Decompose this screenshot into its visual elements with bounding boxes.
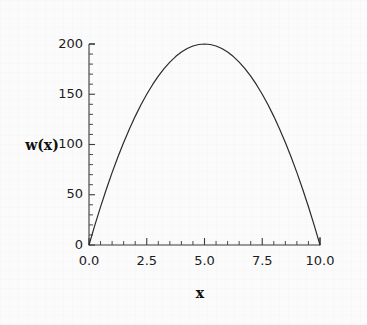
x-tick-label: 2.5 xyxy=(136,253,157,268)
axes-group xyxy=(89,44,320,245)
ticks-group xyxy=(89,44,320,245)
x-tick-label: 0.0 xyxy=(79,253,100,268)
y-axis-title: w(x) xyxy=(24,137,59,153)
plot-canvas: 0501001502000.02.55.07.510.0 w(x) x xyxy=(0,0,367,325)
chart-figure: 0501001502000.02.55.07.510.0 w(x) x xyxy=(0,0,367,325)
y-tick-label: 150 xyxy=(58,86,83,101)
x-tick-label: 5.0 xyxy=(194,253,215,268)
x-axis-title: x xyxy=(196,285,205,301)
data-curve-group xyxy=(89,44,320,245)
y-tick-label: 100 xyxy=(58,136,83,151)
x-tick-label: 7.5 xyxy=(252,253,273,268)
y-tick-label: 50 xyxy=(66,186,83,201)
tick-labels-group: 0501001502000.02.55.07.510.0 xyxy=(58,36,334,269)
y-tick-label: 200 xyxy=(58,36,83,51)
y-tick-label: 0 xyxy=(75,237,83,252)
data-curve-0 xyxy=(89,44,320,245)
x-tick-label: 10.0 xyxy=(306,253,335,268)
